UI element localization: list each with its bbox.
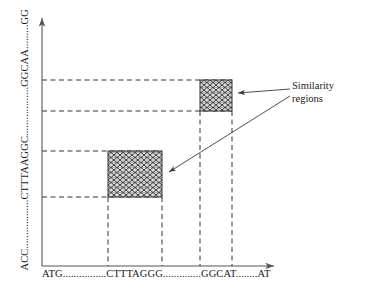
similarity-regions-annotation: Similarity regions: [292, 80, 334, 105]
annotation-line-1: Similarity: [292, 80, 334, 93]
similarity-region-lower: [108, 151, 162, 197]
similarity-region-upper: [200, 80, 232, 111]
y-axis-label: ACC..................CTTTAAGGC..........…: [19, 21, 30, 271]
leader-arrow-upper: [238, 89, 290, 93]
annotation-line-2: regions: [292, 93, 334, 106]
figure-dotplot: ATG................CTTTAGGG.............…: [0, 0, 375, 295]
x-axis-label: ATG................CTTTAGGG.............…: [42, 268, 272, 279]
axis-group: [42, 18, 274, 266]
figure-canvas: [0, 0, 375, 295]
